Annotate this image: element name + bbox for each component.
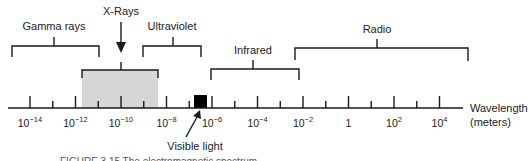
- xrays-label: X-Rays: [103, 5, 140, 17]
- gamma-rays-label: Gamma rays: [23, 20, 86, 32]
- tick-label: 10−8: [156, 115, 176, 129]
- tick-label: 10−14: [18, 115, 42, 129]
- tick-label: 10−10: [109, 115, 133, 129]
- spectrum-diagram: 10−1410−1210−1010−810−610−410−21102104 W…: [0, 0, 530, 161]
- svg-text:FIGURE 3.15 The electromagnet: FIGURE 3.15 The electromagnetic spectrum: [60, 156, 257, 161]
- tick-label: 104: [432, 115, 448, 129]
- tick-label: 10−6: [202, 115, 222, 129]
- infrared-label: Infrared: [234, 44, 272, 56]
- tick-label: 10−12: [63, 115, 87, 129]
- visible-light-arrow-icon: [186, 110, 201, 137]
- tick-label: 10−4: [247, 115, 267, 129]
- tick-label: 102: [386, 115, 402, 129]
- radio-bracket: [295, 39, 468, 61]
- tick-label: 1: [346, 117, 352, 129]
- tick-label: 10−2: [293, 115, 313, 129]
- radio-label: Radio: [363, 23, 392, 35]
- visible-light-label: Visible light: [167, 140, 222, 152]
- infrared-bracket: [211, 60, 299, 80]
- ultraviolet-label: Ultraviolet: [148, 20, 197, 32]
- visible-light-region: [194, 95, 207, 108]
- axis-tick-labels: 10−1410−1210−1010−810−610−410−21102104: [18, 115, 448, 129]
- xrays-arrow-icon: [116, 22, 126, 53]
- gamma-rays-bracket: [12, 37, 99, 57]
- axis-label-units: (meters): [470, 116, 511, 128]
- xray-region: [82, 70, 158, 108]
- ultraviolet-bracket: [143, 37, 201, 57]
- figure-caption: FIGURE 3.15 The electromagnetic spectrum: [60, 156, 257, 161]
- axis-label-wavelength: Wavelength: [470, 102, 528, 114]
